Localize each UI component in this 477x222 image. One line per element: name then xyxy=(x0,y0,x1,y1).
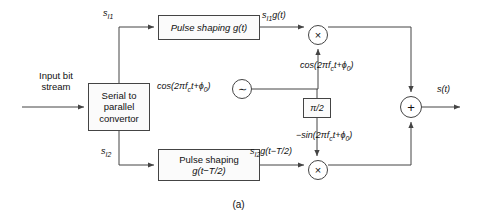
input-line-2: stream xyxy=(41,81,70,92)
quad-mid: t+ϕ xyxy=(333,130,346,140)
sp-line-3: convertor xyxy=(99,113,139,124)
shaped-q-label: sI2g(t−T/2) xyxy=(250,146,292,158)
multiplier-top-glyph: × xyxy=(315,29,321,41)
sp-line-2: parallel xyxy=(104,101,135,112)
multiplier-bottom-glyph: × xyxy=(315,164,321,176)
wire-converter-to-pulse-bottom xyxy=(119,131,154,165)
wire-multiplier-bottom-to-adder xyxy=(328,122,411,165)
wire-converter-to-pulse-top xyxy=(119,27,154,83)
shaped-q-expr: g(t−T/2) xyxy=(260,146,292,156)
phase-shifter-label: π/2 xyxy=(310,103,324,114)
input-line-1: Input bit xyxy=(39,70,73,81)
input-bit-stream-label: Input bit stream xyxy=(23,70,89,93)
multiplier-bottom-icon[interactable]: × xyxy=(308,160,328,180)
inphase-tail: ) xyxy=(351,60,354,70)
osc-carrier-mid: t+ϕ xyxy=(191,81,204,91)
quadrature-carrier-label: −sin(2πfct+ϕ0) xyxy=(296,130,352,142)
pulse-shaping-top-block[interactable]: Pulse shaping g(t) xyxy=(158,15,260,40)
summer-glyph: + xyxy=(407,100,415,115)
serial-to-parallel-converter-block[interactable]: Serial to parallel convertor xyxy=(88,83,150,131)
inphase-head: cos(2πf xyxy=(300,60,331,70)
osc-carrier-head: cos(2πf xyxy=(157,81,188,91)
multiplier-top-icon[interactable]: × xyxy=(308,25,328,45)
shaped-i-expr: g(t) xyxy=(272,10,286,20)
block-diagram: Serial to parallel convertor Pulse shapi… xyxy=(0,0,477,222)
phase-shifter-block[interactable]: π/2 xyxy=(303,98,331,118)
pulse-shaping-bottom-block[interactable]: Pulse shaping g(t−T/2) xyxy=(158,149,260,181)
oscillator-glyph: ∼ xyxy=(238,83,247,96)
shaped-i-label: sI1g(t) xyxy=(262,10,286,22)
output-signal-label: s(t) xyxy=(437,84,450,94)
branch-q-subscript: I2 xyxy=(106,151,112,158)
branch-i-subscript: I1 xyxy=(108,13,114,20)
summer-icon[interactable]: + xyxy=(400,96,422,118)
pulse-shaping-bottom-expr: g(t−T/2) xyxy=(192,165,226,176)
oscillator-carrier-label: cos(2πfct+ϕ0) xyxy=(157,81,211,93)
sp-line-1: Serial to xyxy=(102,90,137,101)
pulse-shaping-bottom-label: Pulse shaping xyxy=(179,154,239,165)
pulse-shaping-top-label: Pulse shaping g(t) xyxy=(171,22,248,33)
inphase-mid: t+ϕ xyxy=(334,60,347,70)
inphase-carrier-label: cos(2πfct+ϕ0) xyxy=(300,60,354,72)
osc-carrier-tail: ) xyxy=(208,81,211,91)
quad-head: −sin(2πf xyxy=(296,130,329,140)
figure-caption: (a) xyxy=(0,199,477,210)
quad-tail: ) xyxy=(349,130,352,140)
branch-i-label: sI1 xyxy=(103,8,113,20)
oscillator-icon[interactable]: ∼ xyxy=(232,79,252,99)
branch-q-label: sI2 xyxy=(101,146,111,158)
